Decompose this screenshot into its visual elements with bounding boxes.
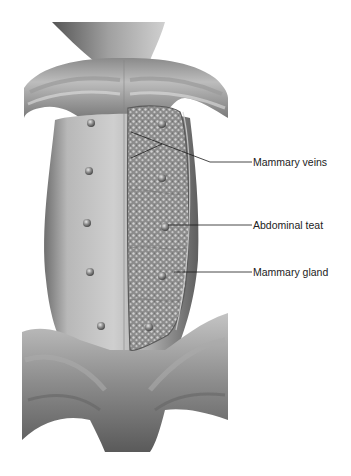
label-mammary-veins: Mammary veins xyxy=(253,156,327,168)
teat xyxy=(85,167,93,175)
teat xyxy=(158,272,166,280)
teat xyxy=(145,323,153,331)
label-abdominal-teat: Abdominal teat xyxy=(253,219,323,231)
teat xyxy=(158,120,166,128)
teat xyxy=(83,219,91,227)
teat xyxy=(161,223,169,231)
label-mammary-gland: Mammary gland xyxy=(253,266,328,278)
teat xyxy=(86,268,94,276)
shoulders xyxy=(24,58,228,118)
teat xyxy=(87,119,95,127)
neck xyxy=(52,22,165,62)
mammary-anatomy-illustration xyxy=(0,0,351,476)
teat xyxy=(158,174,166,182)
teat xyxy=(97,322,105,330)
